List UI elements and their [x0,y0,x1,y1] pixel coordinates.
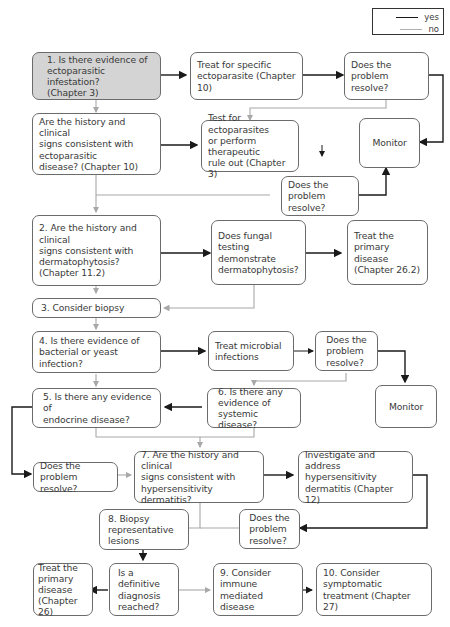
node-resolve-b: Does the problem resolve? [281,176,359,216]
node-q2-dermatophytosis: 2. Are the history and clinical signs co… [32,215,161,286]
node-text: Test for ectoparasites or perform therap… [208,112,292,179]
node-text: 10. Consider symptomatic treatment (Chap… [323,567,425,612]
node-resolve-e: Does the problem resolve? [239,509,300,549]
node-text: 9. Consider immune mediated disease [220,567,296,612]
node-history-ectoparasitic: Are the history and clinical signs consi… [32,113,161,175]
node-text: Does the problem resolve? [351,59,422,93]
node-treat-ectoparasite: Treat for specific ectoparasite (Chapter… [190,52,303,100]
node-q8-biopsy-lesions: 8. Biopsy representative lesions [99,509,189,550]
node-monitor-a: Monitor [359,118,420,168]
node-text: Does fungal testing demonstrate dermatop… [218,230,299,275]
node-resolve-d: Does the problem resolve? [33,462,118,492]
node-text: Treat the primary disease (Chapter 26) [38,562,88,618]
node-text: Monitor [372,137,406,148]
node-text: 8. Biopsy representative lesions [108,513,174,547]
legend: yes no [372,8,444,35]
node-text: Treat for specific ectoparasite (Chapter… [197,59,296,93]
node-text: Does the problem resolve? [249,512,289,546]
node-text: 4. Is there evidence of bacterial or yea… [39,335,154,369]
node-resolve-a: Does the problem resolve? [344,52,429,100]
node-resolve-c: Does the problem resolve? [315,331,378,371]
legend-yes: yes [396,12,439,22]
node-q1-ectoparasitic-infestation: 1. Is there evidence of ectoparasitic in… [32,52,161,100]
node-fungal-testing: Does fungal testing demonstrate dermatop… [211,220,306,285]
node-text: 7. Are the history and clinical signs co… [141,449,257,505]
node-text: Is a definitive diagnosis reached? [118,567,170,612]
node-text: Monitor [389,401,423,412]
node-treat-primary-26-2: Treat the primary disease (Chapter 26.2) [347,220,428,285]
legend-yes-label: yes [424,12,439,22]
node-text: 2. Are the history and clinical signs co… [39,222,154,278]
node-definitive-diagnosis: Is a definitive diagnosis reached? [109,563,179,616]
node-treat-microbial: Treat microbial infections [208,331,294,371]
node-text: Does the problem resolve? [288,179,352,213]
node-text: Treat microbial infections [215,340,281,362]
legend-no-label: no [428,24,439,34]
node-test-ectoparasites: Test for ectoparasites or perform therap… [201,120,299,172]
node-text: Treat the primary disease (Chapter 26.2) [354,230,421,275]
node-text: Are the history and clinical signs consi… [39,116,154,172]
no-line-swatch [400,29,422,30]
node-q5-endocrine: 5. Is there any evidence of endocrine di… [32,388,161,428]
node-monitor-b: Monitor [375,385,437,428]
node-text: 5. Is there any evidence of endocrine di… [43,391,154,425]
node-text: 1. Is there evidence of ectoparasitic in… [47,54,154,99]
node-q4-bacterial-yeast: 4. Is there evidence of bacterial or yea… [32,331,161,373]
node-q6-systemic: 6. Is there any evidence of systemic dis… [207,388,301,428]
node-text: 3. Consider biopsy [41,302,124,313]
yes-line-swatch [396,17,418,18]
node-text: 6. Is there any evidence of systemic dis… [218,386,290,431]
node-q10-symptomatic: 10. Consider symptomatic treatment (Chap… [316,563,432,616]
node-text: Does the problem resolve? [326,334,366,368]
legend-no: no [400,24,439,34]
node-treat-primary-26: Treat the primary disease (Chapter 26) [33,563,93,616]
node-q7-hypersensitivity: 7. Are the history and clinical signs co… [134,451,264,503]
node-q3-consider-biopsy: 3. Consider biopsy [32,298,161,318]
node-q9-immune-mediated: 9. Consider immune mediated disease [213,563,303,616]
node-investigate-hypersensitivity: Investigate and address hypersensitivity… [298,451,413,503]
node-text: Does the problem resolve? [40,460,111,494]
node-text: Investigate and address hypersensitivity… [305,449,406,505]
